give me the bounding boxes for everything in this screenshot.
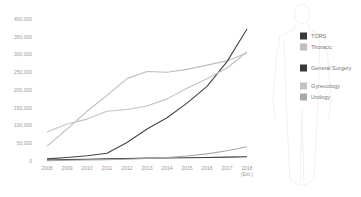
legend-label: TORS bbox=[311, 33, 327, 39]
legend-swatch bbox=[300, 83, 307, 90]
x-tick-label: 2010 bbox=[81, 165, 92, 171]
x-tick-label: 2009 bbox=[61, 165, 72, 171]
y-tick-label: 350,000 bbox=[14, 34, 32, 40]
x-axis: 2008200920102011201220132014201520162017… bbox=[41, 165, 253, 177]
y-tick-label: 100,000 bbox=[14, 122, 32, 128]
x-tick-sublabel: (Est.) bbox=[241, 171, 253, 177]
x-tick-label: 2015 bbox=[181, 165, 192, 171]
y-tick-label: 0 bbox=[29, 158, 32, 164]
legend-swatch bbox=[300, 94, 307, 101]
y-tick-label: 400,000 bbox=[14, 16, 32, 22]
y-tick-label: 200,000 bbox=[14, 87, 32, 93]
legend-item: Thoracic bbox=[300, 44, 332, 51]
y-tick-label: 300,000 bbox=[14, 51, 32, 57]
legend-label: Urology bbox=[311, 94, 330, 100]
x-tick-label: 2014 bbox=[161, 165, 172, 171]
series-lines bbox=[47, 29, 247, 161]
legend-swatch bbox=[300, 65, 307, 72]
series-line-urology bbox=[47, 147, 247, 161]
series-line-thoracic bbox=[47, 53, 247, 146]
series-line-general-surgery bbox=[47, 29, 247, 159]
legend-item: Gynecology bbox=[300, 83, 340, 90]
x-tick-label: 2017 bbox=[221, 165, 232, 171]
y-tick-label: 50,000 bbox=[17, 140, 33, 146]
legend-item: General Surgery bbox=[300, 65, 352, 72]
y-tick-label: 250,000 bbox=[14, 69, 32, 75]
line-chart: 050,000100,000150,000200,000250,000300,0… bbox=[0, 0, 361, 197]
y-tick-label: 150,000 bbox=[14, 105, 32, 111]
x-tick-label: 2013 bbox=[141, 165, 152, 171]
x-tick-label: 2012 bbox=[121, 165, 132, 171]
legend-label: Gynecology bbox=[311, 83, 340, 89]
x-tick-label: 2011 bbox=[102, 165, 113, 171]
legend-label: General Surgery bbox=[311, 65, 352, 71]
legend-label: Thoracic bbox=[311, 44, 332, 50]
x-tick-label: 2008 bbox=[41, 165, 52, 171]
legend-item: TORS bbox=[300, 33, 327, 40]
legend-swatch bbox=[300, 44, 307, 51]
y-axis: 050,000100,000150,000200,000250,000300,0… bbox=[14, 16, 32, 164]
legend-swatch bbox=[300, 33, 307, 40]
legend-item: Urology bbox=[300, 94, 330, 101]
x-tick-label: 2016 bbox=[201, 165, 212, 171]
legend: TORSThoracicGeneral SurgeryGynecologyUro… bbox=[300, 33, 352, 101]
